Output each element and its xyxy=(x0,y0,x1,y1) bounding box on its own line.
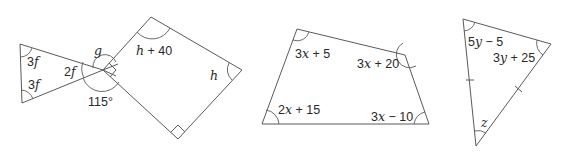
angle-arc-h-plus-40 xyxy=(137,28,170,39)
right-angle-marker-bottom xyxy=(171,125,185,132)
angle-label-5y-minus-5: 5y − 5 xyxy=(468,34,503,49)
angle-arc-3x-minus-10 xyxy=(414,112,425,124)
angle-arc-3y-plus-25 xyxy=(537,40,543,55)
angle-label-3f-bottom: 3f xyxy=(28,77,42,92)
angle-label-g: g xyxy=(94,43,102,58)
angle-label-3f-top: 3f xyxy=(27,54,41,69)
angle-label-3y-plus-25: 3y + 25 xyxy=(493,50,535,65)
angle-label-115: 115° xyxy=(88,95,113,109)
angle-label-h-plus-40: h + 40 xyxy=(136,43,172,58)
angle-arc-z xyxy=(474,131,486,133)
quadrilateral-middle: 3x + 5 3x + 20 2x + 15 3x − 10 xyxy=(262,29,429,124)
angle-arc-h xyxy=(227,63,232,80)
triangle-right: 5y − 5 3y + 25 z xyxy=(463,19,551,146)
quadrilateral-left-outline xyxy=(103,17,242,139)
diagram-canvas: 3f 3f 2f g 115° h + 40 h 3x + 5 3x + 20 … xyxy=(0,0,565,160)
angle-label-2x-plus-15: 2x + 15 xyxy=(278,102,320,117)
angle-arc-5y-minus-5 xyxy=(464,22,475,31)
geometry-diagram: 3f 3f 2f g 115° h + 40 h 3x + 5 3x + 20 … xyxy=(0,0,565,160)
quadrilateral-left: h + 40 h xyxy=(103,17,242,139)
angle-label-h: h xyxy=(210,68,218,83)
angle-label-3x-plus-20: 3x + 20 xyxy=(357,56,399,71)
angle-label-z: z xyxy=(480,115,488,130)
angle-label-3x-plus-5: 3x + 5 xyxy=(295,46,330,61)
angle-label-2f: 2f xyxy=(64,64,78,79)
angle-label-3x-minus-10: 3x − 10 xyxy=(371,109,413,124)
angle-arc-3x-plus-20 xyxy=(396,43,416,68)
